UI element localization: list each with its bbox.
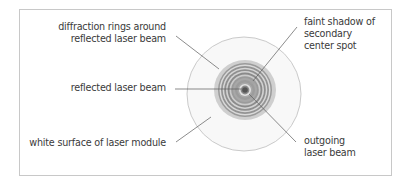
label-line: white surface of laser module [29, 137, 166, 149]
label-diffraction-rings: diffraction rings around reflected laser… [58, 21, 166, 45]
label-line: secondary [304, 28, 375, 40]
label-white-surface: white surface of laser module [29, 137, 166, 149]
label-line: center spot [304, 40, 375, 52]
label-line: diffraction rings around [58, 21, 166, 33]
label-faint-shadow: faint shadow of secondary center spot [304, 16, 375, 52]
label-reflected-beam: reflected laser beam [71, 82, 166, 94]
label-outgoing-beam: outgoing laser beam [304, 135, 356, 159]
label-line: laser beam [304, 147, 356, 159]
label-line: reflected laser beam [58, 33, 166, 45]
label-line: outgoing [304, 135, 356, 147]
label-line: faint shadow of [304, 16, 375, 28]
label-line: reflected laser beam [71, 82, 166, 94]
reflected-beam-spot [242, 87, 248, 93]
